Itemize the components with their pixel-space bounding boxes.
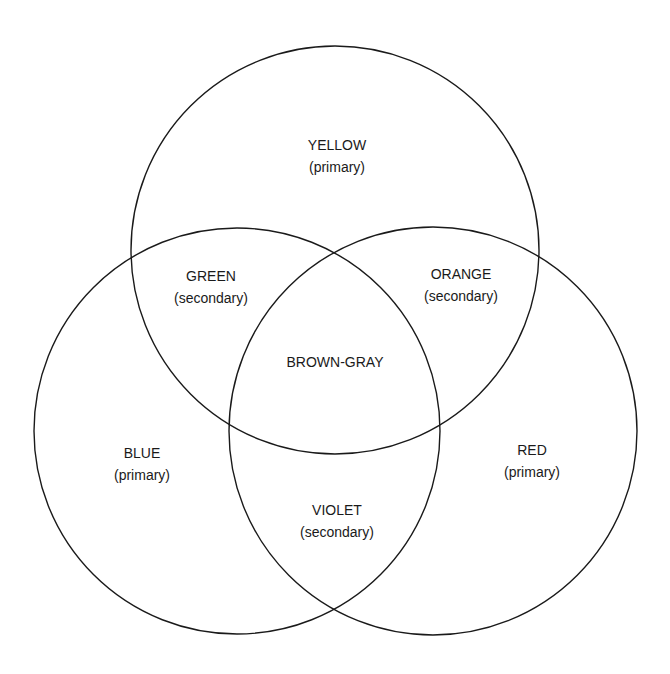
region-green-type: (secondary) <box>174 290 248 306</box>
region-brown-gray-name: BROWN-GRAY <box>287 354 385 370</box>
region-yellow-type: (primary) <box>309 159 365 175</box>
region-yellow: YELLOW (primary) <box>308 137 367 175</box>
region-orange: ORANGE (secondary) <box>424 266 498 304</box>
region-red-type: (primary) <box>504 464 560 480</box>
region-violet-type: (secondary) <box>300 524 374 540</box>
region-orange-type: (secondary) <box>424 288 498 304</box>
region-red: RED (primary) <box>504 442 560 480</box>
region-brown-gray: BROWN-GRAY <box>287 354 385 370</box>
venn-diagram: YELLOW (primary) GREEN (secondary) ORANG… <box>0 0 670 674</box>
blue-circle <box>34 228 440 634</box>
region-yellow-name: YELLOW <box>308 137 367 153</box>
region-blue: BLUE (primary) <box>114 445 170 483</box>
region-orange-name: ORANGE <box>431 266 492 282</box>
region-violet-name: VIOLET <box>312 502 362 518</box>
region-blue-type: (primary) <box>114 467 170 483</box>
region-green-name: GREEN <box>186 268 236 284</box>
region-violet: VIOLET (secondary) <box>300 502 374 540</box>
region-green: GREEN (secondary) <box>174 268 248 306</box>
region-blue-name: BLUE <box>124 445 161 461</box>
yellow-circle <box>131 46 539 454</box>
region-red-name: RED <box>517 442 547 458</box>
